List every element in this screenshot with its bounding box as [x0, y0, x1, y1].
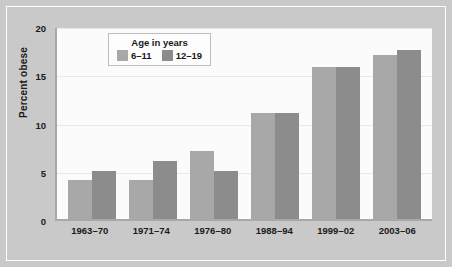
legend: Age in years 6–1112–19	[108, 33, 211, 66]
bar	[251, 113, 275, 219]
bar-group	[312, 28, 360, 219]
bar	[275, 113, 299, 219]
y-axis-tick-label: 20	[22, 23, 46, 34]
legend-entry: 12–19	[162, 50, 202, 61]
y-axis-tick-label: 0	[22, 216, 46, 227]
bar-group	[373, 28, 421, 219]
x-axis-tick-labels: 1963–701971–741976–801988–941999–022003–…	[55, 225, 432, 241]
legend-entry-label: 12–19	[176, 50, 202, 61]
x-axis-tick-label: 1999–02	[312, 225, 360, 241]
bar	[214, 171, 238, 219]
x-axis-tick-label: 1963–70	[66, 225, 114, 241]
bar	[153, 161, 177, 219]
x-axis-tick-label: 1976–80	[189, 225, 237, 241]
legend-title: Age in years	[117, 37, 202, 48]
legend-swatch-icon	[117, 50, 128, 61]
chart-figure: Percent obese 05101520 1963–701971–74197…	[0, 0, 452, 267]
bar	[92, 171, 116, 219]
y-axis-tick-label: 15	[22, 71, 46, 82]
legend-entry-label: 6–11	[131, 50, 152, 61]
bar	[190, 151, 214, 219]
bar-group	[251, 28, 299, 219]
y-axis-tick-label: 5	[22, 167, 46, 178]
y-axis-tick-label: 10	[22, 119, 46, 130]
bar	[312, 67, 336, 219]
bar	[68, 180, 92, 219]
bar	[373, 55, 397, 219]
bar	[129, 180, 153, 219]
x-axis-tick-label: 2003–06	[373, 225, 421, 241]
legend-entries: 6–1112–19	[117, 50, 202, 61]
bar	[397, 50, 421, 219]
bar	[336, 67, 360, 219]
x-axis-tick-label: 1971–74	[127, 225, 175, 241]
legend-entry: 6–11	[117, 50, 152, 61]
legend-swatch-icon	[162, 50, 173, 61]
x-axis-tick-label: 1988–94	[250, 225, 298, 241]
y-axis-tick-labels: 05101520	[22, 28, 46, 221]
